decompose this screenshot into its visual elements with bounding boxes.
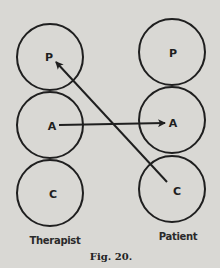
therapist-parent-label: P (45, 51, 53, 64)
therapist-column-label: Therapist (29, 235, 80, 246)
patient-adult-label: A (169, 117, 178, 130)
figure-caption: Fig. 20. (90, 251, 132, 262)
patient-child-label: C (173, 185, 181, 198)
patient-column-label: Patient (159, 231, 198, 242)
arrow-child-to-parent (56, 62, 167, 182)
therapist-adult-label: A (48, 120, 57, 133)
transactional-diagram: P A C P A C Therapist Patient Fig. 20. (0, 0, 220, 268)
diagram-graphics (0, 0, 220, 268)
patient-parent-label: P (169, 47, 177, 60)
therapist-child-label: C (49, 188, 57, 201)
